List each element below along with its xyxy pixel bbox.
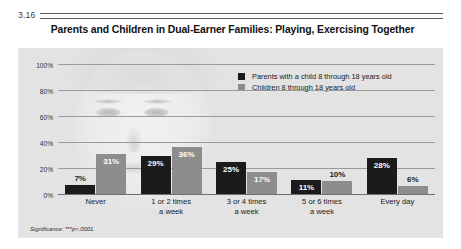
chart-panel: Parents with a child 8 through 18 years … [18,48,443,238]
figure-header: 3.16 [18,8,443,22]
y-axis-tick-label: 40% [40,140,53,147]
figure-rule [40,13,443,19]
bar: 17% [247,172,277,194]
bar: 29% [141,156,171,194]
bar: 10% [322,181,352,194]
x-axis-category-line: 3 or 4 times [209,197,284,207]
bar-value-label: 36% [172,150,202,159]
x-axis-category-line: a week [284,207,359,217]
plot-area: 100%80%60%40%20%0% 7%31%29%36%25%17%11%1… [58,64,435,194]
x-axis-category-label: 1 or 2 timesa week [133,194,208,216]
x-axis-category-line: 5 or 6 times [284,197,359,207]
significance-note: Significance: ***p<.0001. [30,226,95,232]
x-axis-category-line: a week [209,207,284,217]
bar-value-label: 25% [216,165,246,174]
figure-title: Parents and Children in Dual-Earner Fami… [18,24,447,35]
bar: 31% [96,154,126,194]
bar-value-label: 11% [291,183,321,192]
bar-value-label: 28% [367,161,397,170]
bar-group: 28%6% [360,64,435,194]
bar-value-label: 31% [96,157,126,166]
x-axis-category-line: Every day [360,197,435,207]
x-axis-category-label: 3 or 4 timesa week [209,194,284,216]
x-axis-labels: Never1 or 2 timesa week3 or 4 timesa wee… [58,194,435,216]
x-axis-category-label: 5 or 6 timesa week [284,194,359,216]
bar: 6% [398,186,428,194]
bar-group: 29%36% [133,64,208,194]
y-axis-tick-label: 80% [40,88,53,95]
figure-number: 3.16 [18,10,35,20]
bar-value-label: 10% [322,170,352,179]
bar-value-label: 29% [141,159,171,168]
bar-group: 7%31% [58,64,133,194]
bar: 28% [367,158,397,194]
bar: 36% [172,147,202,194]
bar-value-label: 6% [398,175,428,184]
bar-value-label: 17% [247,175,277,184]
bar: 11% [291,180,321,194]
x-axis-category-label: Never [58,194,133,216]
x-axis-category-label: Every day [360,194,435,216]
x-axis-category-line: a week [133,207,208,217]
y-axis-tick-label: 0% [43,192,53,199]
bar-groups: 7%31%29%36%25%17%11%10%28%6% [58,64,435,194]
x-axis-category-line: Never [58,197,133,207]
y-axis-tick-label: 100% [36,62,53,69]
bar-group: 25%17% [209,64,284,194]
y-axis-tick-label: 60% [40,114,53,121]
bar-group: 11%10% [284,64,359,194]
bar-value-label: 7% [65,174,95,183]
bar: 25% [216,162,246,195]
bar: 7% [65,185,95,194]
y-axis-tick-label: 20% [40,166,53,173]
x-axis-category-line: 1 or 2 times [133,197,208,207]
